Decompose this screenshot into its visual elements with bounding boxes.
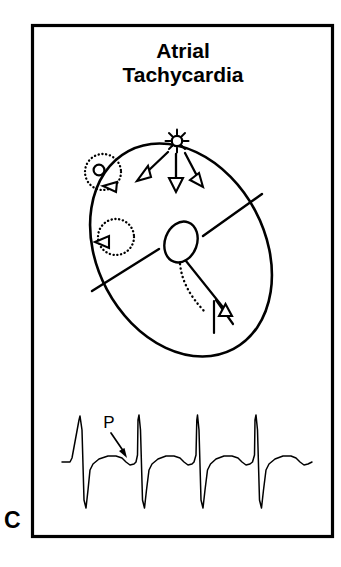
figure-canvas: Atrial Tachycardia C	[0, 0, 341, 567]
p-wave-label: P	[103, 413, 114, 432]
panel-letter-label: C	[4, 507, 21, 533]
figure-title-line1: Atrial	[156, 39, 210, 62]
figure-panel-c: Atrial Tachycardia C	[0, 0, 341, 567]
figure-title-line2: Tachycardia	[122, 63, 243, 86]
focus-core-circle	[172, 136, 182, 146]
starburst-focus-icon	[166, 130, 189, 153]
